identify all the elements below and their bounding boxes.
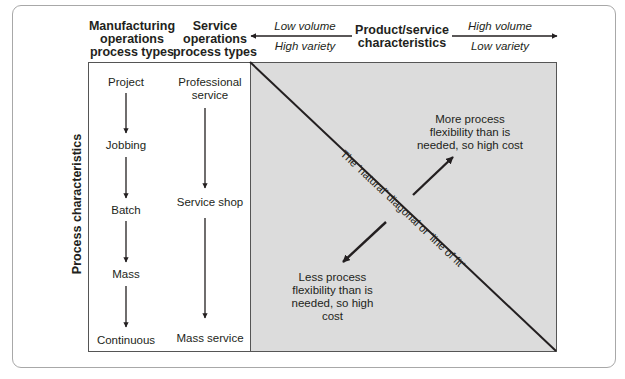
upward-arrow xyxy=(413,157,453,195)
downward-arrow xyxy=(343,222,386,262)
diagram-lines xyxy=(0,0,625,379)
line-of-fit xyxy=(250,62,556,351)
